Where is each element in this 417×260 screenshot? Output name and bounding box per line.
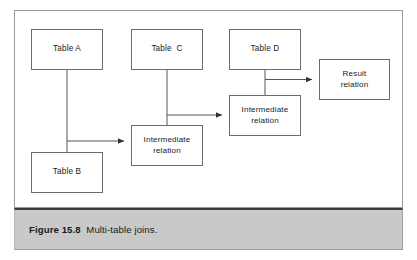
- node-intermediate-relation-1-label: Intermediate relation: [132, 135, 202, 155]
- node-intermediate-relation-1[interactable]: Intermediate relation: [131, 125, 203, 166]
- node-result-relation[interactable]: Result relation: [319, 59, 390, 100]
- edge-c-to-intermediate-2: [167, 70, 222, 115]
- figure-container: Table A Table C Table D Result relation …: [0, 0, 417, 260]
- figure-caption-bar: Figure 15.8 Multi-table joins.: [14, 208, 403, 250]
- node-result-relation-label: Result relation: [320, 69, 389, 89]
- edge-d-to-result: [265, 70, 312, 80]
- node-table-d-label: Table D: [230, 44, 300, 54]
- figure-caption: Figure 15.8 Multi-table joins.: [15, 224, 157, 235]
- node-table-c[interactable]: Table C: [131, 29, 203, 70]
- node-table-d[interactable]: Table D: [229, 29, 301, 70]
- node-table-b-label: Table B: [32, 167, 102, 177]
- node-intermediate-relation-2-label: Intermediate relation: [230, 105, 300, 125]
- node-table-b[interactable]: Table B: [31, 152, 103, 193]
- node-intermediate-relation-2[interactable]: Intermediate relation: [229, 95, 301, 136]
- node-table-c-label: Table C: [132, 44, 202, 54]
- figure-caption-title: Multi-table joins.: [86, 224, 157, 235]
- node-table-a[interactable]: Table A: [31, 29, 103, 70]
- edge-a-to-intermediate-1: [67, 70, 124, 141]
- node-table-a-label: Table A: [32, 44, 102, 54]
- figure-caption-number: Figure 15.8: [29, 224, 81, 235]
